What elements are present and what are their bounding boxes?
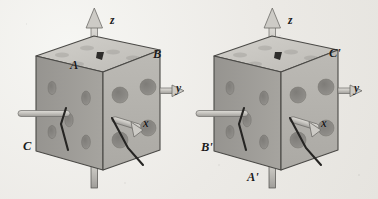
vertex-label-A: A <box>70 59 78 72</box>
right-cube-z-axis-label: z <box>288 15 292 27</box>
right-cube-scene: z y x C' B' A' <box>189 0 378 199</box>
x-axis-rod-left-face <box>18 111 70 117</box>
right-cube-graphic <box>189 0 378 199</box>
left-cube-graphic <box>0 0 189 199</box>
left-cube-x-axis-label: x <box>143 118 149 130</box>
vertex-label-B: B <box>153 48 161 61</box>
right-cube-y-axis-label: y <box>354 83 359 95</box>
vertex-label-C-prime: C' <box>329 47 341 60</box>
vertex-label-C: C <box>23 140 31 153</box>
left-cube-scene: z y x A B C <box>0 0 189 199</box>
left-cube-y-axis-label: y <box>176 83 181 95</box>
left-cube-z-axis-label: z <box>110 15 114 27</box>
right-cube-x-axis-label: x <box>321 118 327 130</box>
vertex-label-A-prime: A' <box>247 171 259 184</box>
figure-canvas: z y x A B C <box>0 0 378 199</box>
x-axis-rod-left-face <box>196 111 248 117</box>
vertex-label-B-prime: B' <box>201 141 213 154</box>
